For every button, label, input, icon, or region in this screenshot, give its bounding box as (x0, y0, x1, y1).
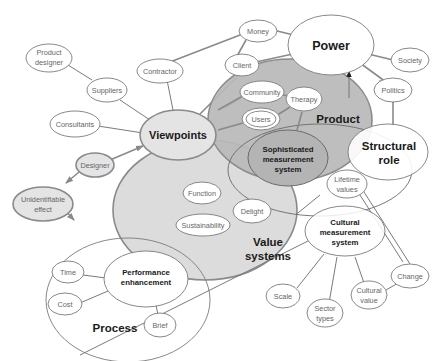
svg-text:Client: Client (233, 61, 252, 70)
node-product-designer[interactable]: Product designer (26, 44, 72, 72)
node-structural-role[interactable]: Structural role (348, 124, 428, 180)
node-community[interactable]: Community (240, 81, 284, 103)
power-label: Power (312, 39, 350, 53)
svg-text:Structural: Structural (362, 140, 416, 152)
svg-text:Product: Product (36, 48, 61, 57)
svg-text:values: values (336, 185, 357, 194)
svg-text:types: types (316, 314, 334, 323)
node-lifetime-values[interactable]: Lifetime values (327, 170, 367, 198)
node-consultants[interactable]: Consultants (50, 111, 100, 137)
svg-text:Suppliers: Suppliers (92, 86, 123, 95)
node-users[interactable]: Users (242, 108, 280, 130)
svg-text:Money: Money (247, 27, 269, 36)
svg-text:Cultural: Cultural (356, 286, 382, 295)
node-designer[interactable]: Designer (76, 153, 114, 177)
node-time[interactable]: Time (52, 261, 84, 283)
node-society[interactable]: Society (391, 48, 429, 72)
node-delight[interactable]: Delight (233, 199, 271, 223)
svg-text:measurement: measurement (263, 155, 314, 164)
node-unidentifiable-effect[interactable]: Unidentifiable effect (13, 187, 73, 221)
svg-text:Users: Users (251, 115, 270, 124)
svg-text:Unidentifiable: Unidentifiable (21, 195, 65, 204)
svg-text:Cost: Cost (57, 300, 72, 309)
node-brief[interactable]: Brief (144, 313, 176, 337)
node-function[interactable]: Function (183, 182, 221, 204)
node-change[interactable]: Change (391, 264, 429, 288)
node-money[interactable]: Money (239, 20, 277, 42)
svg-text:Time: Time (60, 268, 76, 277)
node-contractor[interactable]: Contractor (137, 59, 183, 83)
svg-text:Cultural: Cultural (330, 218, 359, 227)
svg-text:effect: effect (34, 205, 52, 214)
svg-text:Brief: Brief (152, 321, 168, 330)
svg-text:Politics: Politics (381, 86, 404, 95)
node-sector-types[interactable]: Sector types (307, 299, 343, 327)
svg-text:Scale: Scale (274, 292, 292, 301)
product-label: Product (316, 113, 360, 125)
node-client[interactable]: Client (225, 54, 259, 76)
process-label: Process (93, 322, 138, 334)
svg-text:Community: Community (244, 88, 281, 97)
svg-text:Function: Function (188, 189, 216, 198)
svg-text:value: value (360, 296, 377, 305)
node-viewpoints[interactable]: Viewpoints (140, 110, 216, 160)
node-politics[interactable]: Politics (374, 78, 412, 102)
node-cultural-value[interactable]: Cultural value (351, 281, 387, 309)
svg-text:Sector: Sector (314, 304, 336, 313)
svg-text:measurement: measurement (320, 228, 371, 237)
node-sophisticated-measurement-system[interactable]: Sophisticated measurement system (248, 130, 328, 186)
concept-map: Power Money Client Contractor Product de… (0, 0, 441, 361)
svg-text:Sustainability: Sustainability (182, 221, 225, 230)
value-systems-label-1: Value (253, 236, 283, 248)
svg-text:role: role (378, 154, 399, 166)
svg-text:Change: Change (397, 272, 423, 281)
node-suppliers[interactable]: Suppliers (87, 78, 127, 102)
node-sustainability[interactable]: Sustainability (176, 214, 230, 236)
svg-text:Therapy: Therapy (291, 95, 318, 104)
svg-text:Viewpoints: Viewpoints (149, 129, 207, 141)
svg-text:enhancement: enhancement (121, 278, 172, 287)
node-performance-enhancement[interactable]: Performance enhancement (104, 251, 188, 307)
node-power[interactable]: Power (288, 15, 374, 75)
node-cost[interactable]: Cost (48, 293, 82, 315)
value-systems-label-2: systems (245, 250, 291, 262)
svg-text:Lifetime: Lifetime (334, 175, 360, 184)
svg-text:Performance: Performance (122, 268, 170, 277)
svg-text:Contractor: Contractor (143, 67, 178, 76)
svg-text:Delight: Delight (241, 207, 264, 216)
node-cultural-measurement-system[interactable]: Cultural measurement system (305, 206, 385, 256)
node-scale[interactable]: Scale (266, 284, 300, 308)
svg-text:Society: Society (398, 56, 422, 65)
svg-text:Designer: Designer (80, 161, 110, 170)
svg-text:Sophisticated: Sophisticated (262, 145, 313, 154)
svg-text:system: system (275, 165, 302, 174)
svg-text:designer: designer (35, 58, 64, 67)
node-therapy[interactable]: Therapy (286, 87, 322, 111)
svg-text:system: system (332, 238, 359, 247)
svg-text:Consultants: Consultants (56, 120, 95, 129)
